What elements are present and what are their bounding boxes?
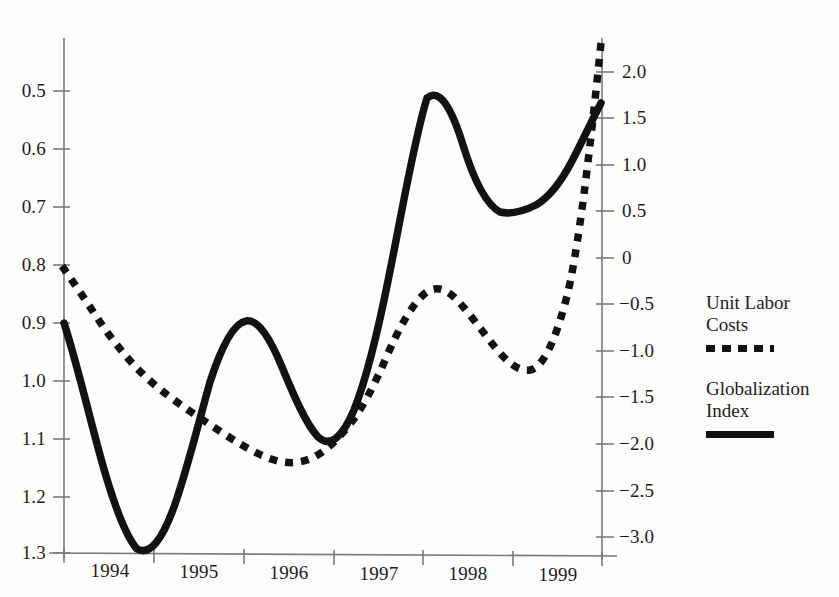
ytick-right-0: 2.0 (622, 61, 646, 83)
chart-figure: 0.5 0.6 0.7 0.8 0.9 1.0 1.1 1.2 1.3 2.0 … (0, 0, 839, 597)
ytick-right-2: 1.0 (622, 154, 646, 176)
ytick-right-10: −3.0 (619, 526, 654, 548)
chart-legend: Unit Labor Costs Globalization Index (706, 292, 834, 464)
legend-label-globalization-index-line1: Globalization (706, 378, 834, 400)
series-line-unit-labor-costs (62, 43, 601, 463)
legend-entry-globalization-index: Globalization Index (706, 378, 834, 438)
ytick-left-4: 0.9 (0, 312, 46, 334)
ytick-right-7: −1.5 (619, 386, 654, 408)
ytick-right-1: 1.5 (622, 107, 646, 129)
xtick-label-1998: 1998 (449, 563, 488, 585)
ytick-left-7: 1.2 (0, 486, 46, 508)
ytick-left-5: 1.0 (0, 370, 46, 392)
ytick-right-3: 0.5 (622, 200, 646, 222)
ytick-left-0: 0.5 (0, 80, 46, 102)
legend-swatch-dashed-icon (706, 345, 774, 352)
ytick-left-3: 0.8 (0, 254, 46, 276)
x-axis-line (49, 553, 617, 556)
legend-swatch-solid-icon (706, 431, 774, 438)
xtick-label-1994: 1994 (91, 560, 130, 582)
right-axis-ticks (596, 72, 614, 537)
series-line-globalization-index (64, 95, 601, 550)
ytick-left-6: 1.1 (0, 428, 46, 450)
xtick-label-1997: 1997 (360, 563, 399, 585)
legend-entry-unit-labor-costs: Unit Labor Costs (706, 292, 834, 352)
legend-label-globalization-index-line2: Index (706, 400, 834, 422)
ytick-right-8: −2.0 (619, 433, 654, 455)
xtick-label-1996: 1996 (270, 562, 309, 584)
ytick-right-9: −2.5 (619, 480, 654, 502)
legend-label-unit-labor-costs-line2: Costs (706, 314, 834, 336)
ytick-right-4: 0 (622, 247, 632, 269)
xtick-label-1999: 1999 (539, 564, 578, 586)
xtick-label-1995: 1995 (180, 561, 219, 583)
ytick-left-2: 0.7 (0, 196, 46, 218)
legend-label-unit-labor-costs-line1: Unit Labor (706, 292, 834, 314)
ytick-left-1: 0.6 (0, 138, 46, 160)
ytick-left-8: 1.3 (0, 542, 46, 564)
ytick-right-5: −0.5 (619, 293, 654, 315)
ytick-right-6: −1.0 (619, 340, 654, 362)
